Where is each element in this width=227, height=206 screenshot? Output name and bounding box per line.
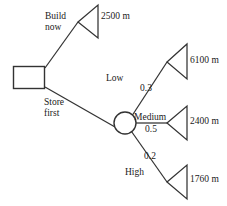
branch-label-store-first: Store first — [44, 97, 64, 119]
branch-label-medium: Medium — [134, 113, 166, 123]
payoff-label-medium: 2400 m — [190, 117, 219, 127]
payoff-label-build-now: 2500 m — [101, 12, 130, 22]
probability-label-medium: 0.5 — [145, 125, 157, 135]
payoff-label-high: 1760 m — [190, 175, 219, 185]
terminal-triangle-high — [167, 165, 187, 199]
terminal-triangle-low — [167, 44, 187, 79]
chance-node-circle — [114, 112, 136, 134]
decision-node-square — [14, 67, 45, 89]
probability-label-high: 0.2 — [144, 152, 156, 162]
branch-label-build-now-line2: now — [45, 22, 66, 33]
branch-label-low: Low — [106, 74, 123, 84]
branch-label-store-first-line1: Store — [44, 97, 64, 108]
branch-label-build-now: Build now — [45, 11, 66, 33]
decision-tree-diagram: Build now 2500 m Store first Low 0.3 610… — [0, 0, 227, 206]
probability-label-low: 0.3 — [140, 84, 152, 94]
terminal-triangle-build-now — [78, 5, 98, 38]
branch-label-store-first-line2: first — [44, 108, 64, 119]
payoff-label-low: 6100 m — [190, 56, 219, 66]
terminal-triangle-medium — [167, 106, 187, 140]
branch-label-build-now-line1: Build — [45, 11, 66, 22]
branch-label-high: High — [125, 168, 144, 178]
